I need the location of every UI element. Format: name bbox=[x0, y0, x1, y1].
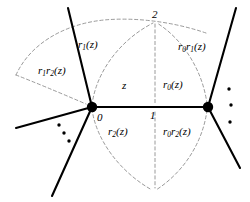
r0-suffix: (z) bbox=[171, 78, 183, 90]
edge-zero-down bbox=[52, 107, 92, 196]
diagram-svg bbox=[0, 0, 250, 202]
edge-one-up bbox=[208, 8, 236, 107]
r1-suffix: (z) bbox=[86, 38, 98, 50]
r0r2-suffix: (z) bbox=[179, 125, 191, 137]
edge-zero-left bbox=[16, 107, 92, 128]
ellipsis-dot bbox=[67, 139, 70, 142]
point-label-two: 2 bbox=[152, 9, 158, 20]
region-label-r0r1: r0r1(z) bbox=[178, 41, 206, 53]
r1r2-suffix: (z) bbox=[54, 64, 66, 76]
arc-one-to-two-upper bbox=[157, 23, 207, 104]
region-label-r1: r1(z) bbox=[78, 39, 98, 51]
arc-zero-to-two-upper bbox=[92, 23, 153, 105]
vertex-label-zero: 0 bbox=[97, 112, 103, 123]
ellipsis-dot bbox=[227, 87, 230, 90]
vertex-label-one: 1 bbox=[150, 110, 156, 121]
arc-one-lower bbox=[156, 110, 207, 190]
r2-suffix: (z) bbox=[116, 125, 128, 137]
r0r1-suffix: (z) bbox=[194, 40, 206, 52]
arc-r1r2-lower bbox=[16, 75, 86, 104]
vertex-zero-dot bbox=[87, 102, 97, 112]
region-label-r1r2: r1r2(z) bbox=[38, 65, 66, 77]
region-label-r0r2: r0r2(z) bbox=[163, 126, 191, 138]
ellipsis-right bbox=[227, 87, 232, 123]
ellipsis-dot bbox=[62, 131, 65, 134]
ellipsis-dot bbox=[57, 123, 60, 126]
region-label-r2: r2(z) bbox=[108, 126, 128, 138]
region-label-z: z bbox=[122, 80, 126, 91]
ellipsis-dot bbox=[228, 120, 231, 123]
ellipsis-lower-left bbox=[57, 123, 70, 142]
ellipsis-dot bbox=[229, 103, 232, 106]
edge-one-down bbox=[208, 107, 240, 168]
vertex-one-dot bbox=[203, 102, 213, 112]
figure-canvas: 2 0 1 z r1(z) r1r2(z) r0r1(z) r0(z) r2(z… bbox=[0, 0, 250, 202]
region-label-r0: r0(z) bbox=[163, 79, 183, 91]
